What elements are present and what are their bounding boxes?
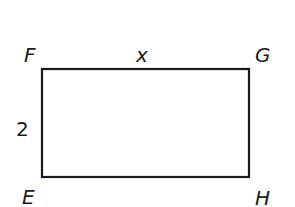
side-label-top: x	[135, 43, 148, 67]
rectangle-EFGH	[42, 69, 249, 177]
vertex-label-G: G	[255, 43, 271, 67]
vertex-label-E: E	[22, 185, 35, 207]
rectangle-diagram: F x G 2 E H	[0, 0, 295, 207]
side-label-left: 2	[16, 117, 29, 141]
vertex-label-F: F	[24, 43, 36, 67]
vertex-label-H: H	[255, 186, 270, 207]
